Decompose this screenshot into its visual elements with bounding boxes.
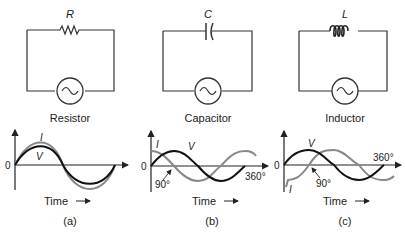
resistor-name: Resistor xyxy=(50,112,91,124)
ac-circuits-diagram: R Resistor I V 0 Time (a) C Capacitor I … xyxy=(0,0,405,242)
phase-label: 90° xyxy=(316,178,331,189)
zero-label: 0 xyxy=(274,160,280,171)
voltage-label: V xyxy=(36,151,44,162)
inductor-name: Inductor xyxy=(325,112,365,124)
cycle-label: 360° xyxy=(373,152,394,163)
resistor-waveform: I V 0 Time (a) xyxy=(5,130,128,227)
cycle-label: 360° xyxy=(245,171,266,182)
inductor-coil-icon xyxy=(330,26,348,37)
current-label: I xyxy=(40,132,43,143)
time-label: Time xyxy=(192,195,216,207)
capacitor-symbol-label: C xyxy=(204,8,212,20)
time-label: Time xyxy=(323,195,347,207)
zero-label: 0 xyxy=(5,160,11,171)
inductor-waveform: I V 0 90° 360° Time (c) xyxy=(274,131,401,227)
inductor-symbol-label: L xyxy=(342,8,348,20)
resistor-symbol-label: R xyxy=(66,8,74,20)
caption-c: (c) xyxy=(339,215,352,227)
resistor-circuit: R Resistor xyxy=(27,8,114,124)
inductor-circuit: L Inductor xyxy=(299,8,387,124)
current-label: I xyxy=(156,139,159,150)
capacitor-name: Capacitor xyxy=(184,112,231,124)
current-label: I xyxy=(289,184,292,195)
capacitor-waveform: I V 0 90° 360° Time (b) xyxy=(141,131,268,227)
caption-a: (a) xyxy=(63,215,76,227)
zero-label: 0 xyxy=(141,161,147,172)
voltage-label: V xyxy=(188,141,196,152)
caption-b: (b) xyxy=(205,215,218,227)
voltage-label: V xyxy=(308,138,316,149)
capacitor-circuit: C Capacitor xyxy=(163,8,252,124)
time-label: Time xyxy=(44,195,68,207)
phase-label: 90° xyxy=(155,179,170,190)
